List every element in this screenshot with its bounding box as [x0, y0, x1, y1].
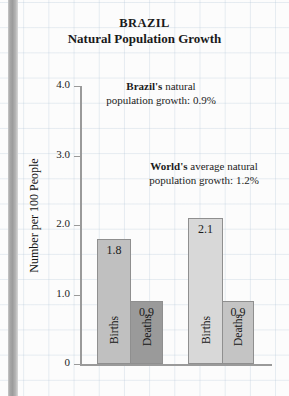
y-tick-mark — [74, 295, 81, 296]
y-tick-label: 2.0 — [36, 217, 70, 229]
bar-value-label: 1.8 — [98, 243, 130, 258]
bar-world-deaths: 0.9Deaths — [222, 301, 254, 364]
bar-category-label: Births — [200, 316, 212, 344]
y-tick-label: 4.0 — [36, 78, 70, 90]
bar-category-wrap: Deaths — [223, 303, 253, 357]
y-tick-label: 1.0 — [36, 287, 70, 299]
bar-category-label: Births — [108, 316, 120, 344]
y-tick-mark — [74, 225, 81, 226]
bar-value-label: 2.1 — [189, 222, 222, 237]
bar-category-label: Deaths — [141, 314, 153, 346]
y-tick-mark — [74, 86, 81, 87]
y-axis-title: Number per 100 People — [27, 116, 42, 316]
bar-brazil-deaths: 0.9Deaths — [130, 301, 163, 364]
plot-area: Number per 100 People 4.03.02.01.00 1.8B… — [0, 0, 289, 396]
bar-brazil-births: 1.8Births — [97, 239, 131, 364]
bar-world-births: 2.1Births — [188, 218, 223, 364]
bar-category-label: Deaths — [232, 314, 244, 346]
y-tick-mark — [74, 156, 81, 157]
bar-category-wrap: Births — [189, 303, 222, 357]
y-tick-label: 0 — [36, 356, 70, 368]
bar-category-wrap: Births — [98, 303, 130, 357]
bar-category-wrap: Deaths — [131, 303, 162, 357]
y-tick-label: 3.0 — [36, 148, 70, 160]
y-tick-mark — [74, 364, 81, 365]
chart-page: BRAZIL Natural Population Growth Brazil'… — [0, 0, 289, 396]
x-axis-line — [80, 364, 272, 366]
